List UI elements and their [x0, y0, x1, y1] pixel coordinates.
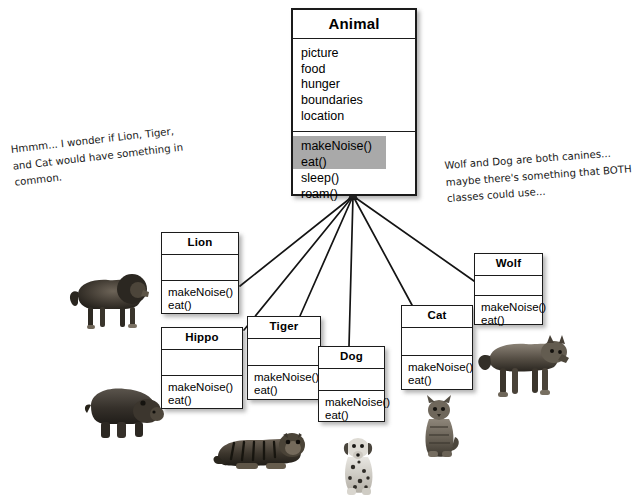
operation-row: makeNoise() — [168, 381, 242, 395]
hippo-photo — [81, 378, 165, 440]
class-operations-lion: makeNoise() eat() — [162, 281, 238, 317]
attribute-row: picture — [301, 45, 415, 61]
class-box-dog[interactable]: Dog makeNoise() eat() — [318, 346, 385, 422]
operation-row: eat() — [481, 314, 542, 328]
attribute-row: boundaries — [301, 93, 415, 109]
operation-row: eat() — [168, 394, 242, 408]
tiger-photo — [212, 415, 316, 477]
attribute-row: food — [301, 61, 415, 77]
class-operations-tiger: makeNoise() eat() — [248, 366, 320, 402]
class-operations-hippo: makeNoise() eat() — [162, 376, 242, 412]
class-box-lion[interactable]: Lion makeNoise() eat() — [161, 232, 239, 314]
class-name-cat: Cat — [402, 306, 472, 328]
class-box-hippo[interactable]: Hippo makeNoise() eat() — [161, 327, 243, 409]
class-attributes-cat — [402, 328, 472, 356]
class-attributes-tiger — [248, 339, 320, 366]
class-box-tiger[interactable]: Tiger makeNoise() eat() — [247, 316, 321, 400]
operation-row: eat() — [325, 409, 384, 423]
link-animal-dog — [349, 196, 353, 346]
operation-row: roam() — [301, 187, 415, 203]
class-box-wolf[interactable]: Wolf makeNoise() eat() — [474, 253, 543, 325]
class-operations-animal: makeNoise() eat() sleep() roam() — [293, 132, 415, 209]
class-name-dog: Dog — [319, 347, 384, 369]
operation-row: makeNoise() — [168, 286, 238, 300]
attribute-row: location — [301, 109, 415, 125]
operation-row: makeNoise() — [325, 396, 384, 410]
operation-row: eat() — [168, 299, 238, 313]
class-attributes-wolf — [475, 276, 542, 296]
class-operations-cat: makeNoise() eat() — [402, 356, 472, 392]
class-operations-dog: makeNoise() eat() — [319, 391, 384, 427]
dog-photo — [330, 431, 386, 497]
class-attributes-animal: picture food hunger boundaries location — [293, 39, 415, 132]
operation-row: makeNoise() — [481, 301, 542, 315]
link-animal-cat — [353, 196, 412, 305]
link-animal-lion — [240, 196, 353, 286]
class-name-hippo: Hippo — [162, 328, 242, 350]
lion-photo — [64, 259, 154, 333]
operation-row: eat() — [301, 155, 415, 171]
operation-row: sleep() — [301, 171, 415, 187]
class-name-wolf: Wolf — [475, 254, 542, 276]
cat-photo — [414, 393, 464, 459]
class-attributes-lion — [162, 255, 238, 281]
diagram-canvas: Animal picture food hunger boundaries lo… — [0, 0, 644, 501]
class-operations-wolf: makeNoise() eat() — [475, 296, 542, 332]
class-attributes-hippo — [162, 350, 242, 376]
link-animal-hippo — [244, 196, 353, 330]
operation-row: makeNoise() — [254, 371, 320, 385]
operation-row: makeNoise() — [301, 139, 415, 155]
class-name-lion: Lion — [162, 233, 238, 255]
operation-row: eat() — [254, 384, 320, 398]
class-box-cat[interactable]: Cat makeNoise() eat() — [401, 305, 473, 390]
link-animal-wolf — [353, 196, 474, 281]
link-animal-tiger — [300, 196, 353, 316]
operation-row: makeNoise() — [408, 361, 472, 375]
class-attributes-dog — [319, 369, 384, 391]
attribute-row: hunger — [301, 77, 415, 93]
class-name-animal: Animal — [293, 10, 415, 39]
wolf-photo — [474, 322, 570, 400]
class-box-animal[interactable]: Animal picture food hunger boundaries lo… — [291, 8, 417, 196]
class-name-tiger: Tiger — [248, 317, 320, 339]
operation-row: eat() — [408, 374, 472, 388]
